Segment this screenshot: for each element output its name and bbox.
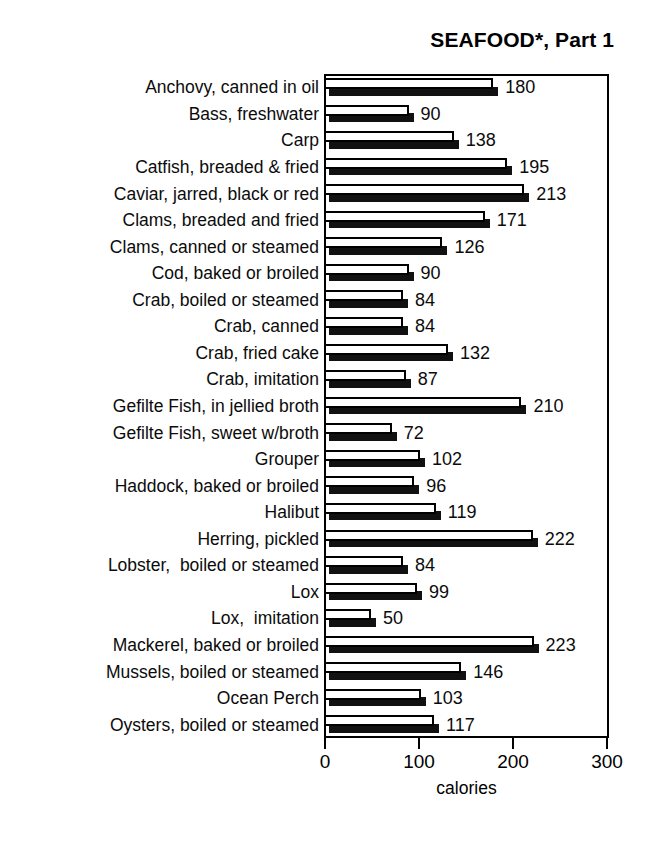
x-tick-mark bbox=[512, 738, 514, 749]
bar bbox=[324, 658, 467, 685]
bar bbox=[324, 393, 527, 420]
chart-row: Clams, canned or steamed126 bbox=[0, 233, 659, 260]
chart-row: Bass, freshwater90 bbox=[0, 101, 659, 128]
bar bbox=[324, 207, 491, 234]
bar-value-label: 213 bbox=[536, 184, 566, 203]
category-label: Herring, pickled bbox=[197, 529, 319, 548]
chart-row: Catfish, breaded & fried195 bbox=[0, 154, 659, 181]
bar-value-label: 171 bbox=[497, 211, 527, 230]
category-label: Lox, imitation bbox=[211, 609, 319, 628]
bar-value-label: 99 bbox=[429, 582, 449, 601]
chart-row: Cod, baked or broiled90 bbox=[0, 260, 659, 287]
bar bbox=[324, 101, 415, 128]
bar-value-label: 210 bbox=[533, 396, 563, 415]
x-tick-label: 300 bbox=[591, 751, 623, 773]
bar-face bbox=[324, 689, 421, 700]
bar-face bbox=[324, 317, 403, 328]
chart-row: Gefilte Fish, in jellied broth210 bbox=[0, 393, 659, 420]
chart-row: Mackerel, baked or broiled223 bbox=[0, 632, 659, 659]
bar-value-label: 223 bbox=[546, 636, 576, 655]
chart-row: Mussels, boiled or steamed146 bbox=[0, 658, 659, 685]
bar-value-label: 90 bbox=[421, 264, 441, 283]
category-label: Crab, canned bbox=[214, 317, 319, 336]
bar-face bbox=[324, 556, 403, 567]
chart-row: Haddock, baked or broiled96 bbox=[0, 472, 659, 499]
bar bbox=[324, 313, 409, 340]
category-label: Catfish, breaded & fried bbox=[135, 157, 319, 176]
bar bbox=[324, 74, 499, 101]
chart-row: Lox99 bbox=[0, 579, 659, 606]
bar bbox=[324, 180, 530, 207]
bar bbox=[324, 605, 377, 632]
bar bbox=[324, 579, 423, 606]
bar bbox=[324, 233, 448, 260]
x-tick-mark bbox=[606, 738, 608, 749]
category-label: Clams, canned or steamed bbox=[110, 237, 319, 256]
bar-face bbox=[324, 158, 507, 169]
bar-face bbox=[324, 290, 403, 301]
category-label: Mackerel, baked or broiled bbox=[113, 636, 319, 655]
category-label: Gefilte Fish, sweet w/broth bbox=[113, 423, 319, 442]
category-label: Grouper bbox=[255, 450, 319, 469]
category-label: Crab, boiled or steamed bbox=[132, 290, 319, 309]
bar-value-label: 72 bbox=[404, 423, 424, 442]
chart-row: Carp138 bbox=[0, 127, 659, 154]
bar-value-label: 146 bbox=[473, 662, 503, 681]
bar-face bbox=[324, 370, 406, 381]
bar-face bbox=[324, 237, 442, 248]
bar-face bbox=[324, 184, 524, 195]
bar-value-label: 96 bbox=[426, 476, 446, 495]
chart-row: Halibut119 bbox=[0, 499, 659, 526]
category-label: Bass, freshwater bbox=[189, 104, 319, 123]
bar bbox=[324, 552, 409, 579]
bar-face bbox=[324, 211, 485, 222]
bar-face bbox=[324, 530, 533, 541]
bar-value-label: 222 bbox=[545, 529, 575, 548]
category-label: Anchovy, canned in oil bbox=[145, 78, 319, 97]
bar-value-label: 87 bbox=[418, 370, 438, 389]
bar-face bbox=[324, 662, 461, 673]
bar bbox=[324, 685, 427, 712]
bar bbox=[324, 472, 420, 499]
chart-row: Herring, pickled222 bbox=[0, 526, 659, 553]
x-tick-mark bbox=[324, 738, 326, 749]
category-label: Mussels, boiled or steamed bbox=[106, 662, 319, 681]
bar bbox=[324, 711, 440, 738]
bar bbox=[324, 446, 426, 473]
bar-value-label: 90 bbox=[421, 104, 441, 123]
chart-row: Lox, imitation50 bbox=[0, 605, 659, 632]
bar-face bbox=[324, 503, 436, 514]
chart-title: SEAFOOD*, Part 1 bbox=[0, 28, 614, 52]
bar-rows-container: Anchovy, canned in oil180Bass, freshwate… bbox=[0, 74, 659, 738]
bar bbox=[324, 419, 398, 446]
bar-face bbox=[324, 397, 521, 408]
bar-face bbox=[324, 131, 454, 142]
bar-face bbox=[324, 423, 392, 434]
x-tick-label: 0 bbox=[320, 751, 331, 773]
bar-face bbox=[324, 609, 371, 620]
bar-face bbox=[324, 476, 414, 487]
bar bbox=[324, 154, 513, 181]
bar bbox=[324, 366, 412, 393]
category-label: Caviar, jarred, black or red bbox=[114, 184, 319, 203]
category-label: Oysters, boiled or steamed bbox=[110, 715, 319, 734]
bar-face bbox=[324, 264, 409, 275]
chart-row: Clams, breaded and fried171 bbox=[0, 207, 659, 234]
chart-row: Crab, canned84 bbox=[0, 313, 659, 340]
x-tick-mark bbox=[418, 738, 420, 749]
bar-face bbox=[324, 636, 534, 647]
bar-value-label: 50 bbox=[383, 609, 403, 628]
bar-value-label: 84 bbox=[415, 290, 435, 309]
bar-face bbox=[324, 715, 434, 726]
bar-value-label: 103 bbox=[433, 689, 463, 708]
bar-value-label: 119 bbox=[448, 503, 477, 522]
bar-face bbox=[324, 344, 448, 355]
chart-row: Crab, fried cake132 bbox=[0, 340, 659, 367]
bar-face bbox=[324, 105, 409, 116]
category-label: Lobster, boiled or steamed bbox=[108, 556, 319, 575]
category-label: Lox bbox=[291, 582, 319, 601]
bar bbox=[324, 632, 540, 659]
x-axis-title: calories bbox=[324, 778, 609, 799]
x-tick-label: 100 bbox=[403, 751, 435, 773]
bar-value-label: 84 bbox=[415, 317, 435, 336]
